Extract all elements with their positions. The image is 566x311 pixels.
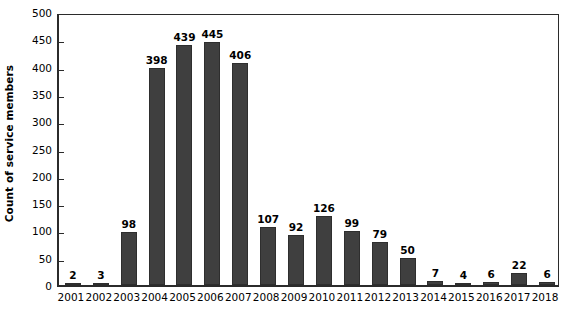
bar-slot: 79 bbox=[366, 15, 394, 285]
bar[interactable] bbox=[288, 235, 304, 285]
bar-value-label: 7 bbox=[432, 268, 439, 279]
plot-area: 239839843944540610792126997950746226 bbox=[57, 14, 559, 287]
y-tick-mark bbox=[59, 206, 64, 207]
bar-value-label: 6 bbox=[488, 269, 495, 280]
bar-value-label: 107 bbox=[257, 214, 279, 225]
bar-value-label: 398 bbox=[146, 55, 168, 66]
bar-value-label: 126 bbox=[313, 203, 335, 214]
bar-chart-figure: Count of service members 050100150200250… bbox=[0, 0, 566, 311]
bar-slot: 3 bbox=[87, 15, 115, 285]
bar[interactable] bbox=[511, 273, 527, 285]
bar-value-label: 98 bbox=[121, 219, 136, 230]
y-tick-mark bbox=[59, 70, 64, 71]
y-tick-label: 200 bbox=[26, 172, 52, 183]
y-tick-label: 350 bbox=[26, 90, 52, 101]
bar[interactable] bbox=[176, 45, 192, 285]
bar-value-label: 3 bbox=[97, 270, 104, 281]
y-tick-label: 400 bbox=[26, 63, 52, 74]
x-tick-label: 2018 bbox=[528, 291, 562, 304]
bar-slot: 107 bbox=[254, 15, 282, 285]
bars-layer: 239839843944540610792126997950746226 bbox=[59, 15, 558, 285]
bar-value-label: 4 bbox=[460, 270, 467, 281]
y-tick-mark bbox=[59, 179, 64, 180]
y-tick-mark bbox=[59, 97, 64, 98]
bar[interactable] bbox=[344, 231, 360, 285]
bar-slot: 406 bbox=[226, 15, 254, 285]
bar[interactable] bbox=[149, 68, 165, 285]
y-axis-tick-labels: 050100150200250300350400450500 bbox=[19, 0, 52, 311]
y-tick-mark bbox=[59, 233, 64, 234]
bar[interactable] bbox=[427, 281, 443, 285]
bar-value-label: 50 bbox=[400, 245, 415, 256]
bar[interactable] bbox=[204, 42, 220, 285]
y-tick-label: 100 bbox=[26, 226, 52, 237]
y-tick-mark bbox=[59, 124, 64, 125]
y-tick-mark bbox=[59, 261, 64, 262]
bar-slot: 98 bbox=[115, 15, 143, 285]
y-tick-label: 500 bbox=[26, 8, 52, 19]
bar-slot: 6 bbox=[533, 15, 561, 285]
bar-value-label: 99 bbox=[345, 218, 360, 229]
bar[interactable] bbox=[316, 216, 332, 285]
bar-slot: 4 bbox=[449, 15, 477, 285]
y-axis-title: Count of service members bbox=[1, 0, 17, 287]
y-tick-label: 0 bbox=[26, 281, 52, 292]
bar[interactable] bbox=[121, 232, 137, 286]
bar-value-label: 79 bbox=[372, 229, 387, 240]
bar-slot: 6 bbox=[477, 15, 505, 285]
bar-slot: 99 bbox=[338, 15, 366, 285]
bar-value-label: 6 bbox=[543, 269, 550, 280]
bar-slot: 92 bbox=[282, 15, 310, 285]
bar-value-label: 445 bbox=[201, 29, 223, 40]
bar-slot: 398 bbox=[143, 15, 171, 285]
y-tick-mark bbox=[59, 42, 64, 43]
bar-value-label: 406 bbox=[229, 50, 251, 61]
bar[interactable] bbox=[400, 258, 416, 285]
bar-value-label: 22 bbox=[512, 260, 527, 271]
y-tick-mark bbox=[59, 152, 64, 153]
y-tick-label: 250 bbox=[26, 145, 52, 156]
y-tick-label: 150 bbox=[26, 199, 52, 210]
bar-value-label: 439 bbox=[174, 32, 196, 43]
y-tick-label: 300 bbox=[26, 117, 52, 128]
bar[interactable] bbox=[455, 283, 471, 285]
bar-slot: 50 bbox=[394, 15, 422, 285]
bar-slot: 7 bbox=[422, 15, 450, 285]
bar[interactable] bbox=[372, 242, 388, 285]
bar[interactable] bbox=[483, 282, 499, 285]
bar[interactable] bbox=[93, 283, 109, 285]
bar-value-label: 92 bbox=[289, 222, 304, 233]
bar[interactable] bbox=[260, 227, 276, 285]
x-axis-tick-labels: 2001200220032004200520062007200820092010… bbox=[57, 291, 559, 309]
bar[interactable] bbox=[539, 282, 555, 285]
bar-slot: 22 bbox=[505, 15, 533, 285]
bar-value-label: 2 bbox=[69, 270, 76, 281]
bar-slot: 439 bbox=[171, 15, 199, 285]
bar[interactable] bbox=[232, 63, 248, 285]
bar-slot: 2 bbox=[59, 15, 87, 285]
bar[interactable] bbox=[65, 283, 81, 285]
bar-slot: 126 bbox=[310, 15, 338, 285]
y-tick-label: 450 bbox=[26, 35, 52, 46]
y-tick-label: 50 bbox=[26, 254, 52, 265]
bar-slot: 445 bbox=[198, 15, 226, 285]
